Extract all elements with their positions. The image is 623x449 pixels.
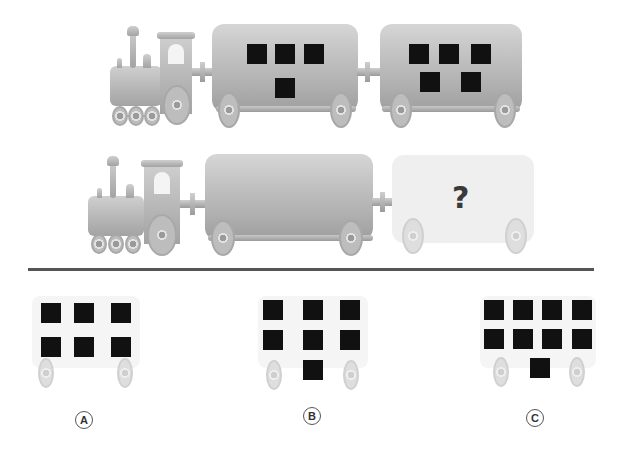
- cargo-square: [542, 300, 562, 320]
- wheel: [147, 214, 177, 256]
- wheel: [569, 357, 585, 387]
- question-mark: ?: [452, 180, 469, 215]
- loco-dome-small: [97, 188, 102, 198]
- wheel: [218, 92, 240, 128]
- cargo-square: [484, 300, 504, 320]
- wheel: [330, 92, 352, 128]
- wheel: [91, 234, 107, 254]
- wheel: [144, 106, 160, 126]
- cargo-square: [303, 360, 323, 380]
- coupler-flange: [190, 193, 195, 215]
- cargo-square: [461, 72, 481, 92]
- cargo-square: [303, 300, 323, 320]
- wheel: [505, 218, 527, 254]
- wheel: [493, 357, 509, 387]
- cargo-square: [74, 303, 94, 323]
- wheel: [494, 92, 516, 128]
- cargo-square: [247, 44, 267, 64]
- cargo-square: [572, 300, 592, 320]
- wheel: [108, 234, 124, 254]
- wheel: [112, 106, 128, 126]
- loco-boiler: [110, 66, 162, 106]
- loco-cab-roof: [157, 32, 195, 39]
- loco-dome: [143, 54, 151, 68]
- cargo-square: [439, 44, 459, 64]
- cargo-square: [41, 337, 61, 357]
- cargo-square: [409, 44, 429, 64]
- loco-boiler: [88, 196, 144, 236]
- wheel: [390, 92, 412, 128]
- cargo-square: [420, 72, 440, 92]
- option-b-label[interactable]: B: [303, 407, 321, 425]
- cargo-square: [263, 330, 283, 350]
- cargo-square: [471, 44, 491, 64]
- cargo-square: [513, 300, 533, 320]
- cargo-square: [111, 303, 131, 323]
- cargo-square: [513, 329, 533, 349]
- coupler-flange: [380, 192, 385, 212]
- wheel: [38, 358, 54, 388]
- wheel: [343, 360, 359, 390]
- coupler-flange: [200, 62, 205, 82]
- loco-cab-window: [154, 172, 170, 194]
- wheel: [128, 106, 144, 126]
- loco-cab-roof: [141, 160, 183, 167]
- cargo-square: [263, 300, 283, 320]
- option-a-label[interactable]: A: [75, 411, 93, 429]
- loco-dome-small: [117, 58, 122, 68]
- divider: [28, 268, 594, 271]
- wheel: [266, 360, 282, 390]
- cargo-square: [484, 329, 504, 349]
- cargo-square: [340, 300, 360, 320]
- wheel: [402, 218, 424, 254]
- wheel: [211, 220, 235, 256]
- cargo-square: [275, 78, 295, 98]
- cargo-square: [275, 44, 295, 64]
- cargo-square: [74, 337, 94, 357]
- cargo-square: [111, 337, 131, 357]
- cargo-square: [340, 330, 360, 350]
- cargo-square: [304, 44, 324, 64]
- wheel: [117, 358, 133, 388]
- loco-chimney-top: [107, 156, 119, 166]
- wheel: [339, 220, 363, 256]
- cargo-square: [542, 329, 562, 349]
- cargo-square: [303, 330, 323, 350]
- cargo-square: [572, 329, 592, 349]
- cargo-square: [41, 303, 61, 323]
- option-c-label[interactable]: C: [526, 409, 544, 427]
- wheel: [125, 234, 141, 254]
- wheel: [163, 85, 191, 125]
- coupler-flange: [365, 62, 370, 82]
- loco-dome: [126, 184, 134, 198]
- cargo-square: [530, 358, 550, 378]
- loco-chimney-top: [127, 26, 139, 36]
- loco-cab-window: [168, 44, 184, 64]
